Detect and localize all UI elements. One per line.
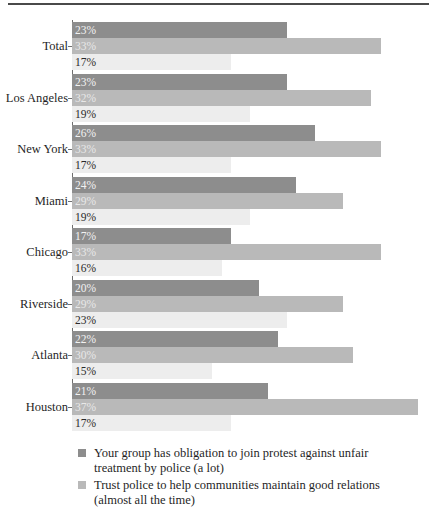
category-label-new-york: New York [0,143,68,156]
bar-value-label: 21% [75,383,96,399]
bar-total-series3: 17% [72,54,231,70]
bar-group: Atlanta22%30%15% [0,331,437,379]
bar-atlanta-series2: 30% [72,347,353,363]
bar-group: New York26%33%17% [0,125,437,173]
legend-swatch-icon [78,481,86,489]
bar-new-york-series3: 17% [72,157,231,173]
bar-value-label: 16% [75,260,96,276]
bar-value-label: 29% [75,296,96,312]
bar-value-label: 33% [75,244,96,260]
category-label-total: Total [0,40,68,53]
bar-miami-series2: 29% [72,193,343,209]
bar-los-angeles-series3: 19% [72,106,250,122]
bar-miami-series3: 19% [72,209,250,225]
bar-value-label: 32% [75,90,96,106]
category-label-houston: Houston [0,401,68,414]
bar-total-series1: 23% [72,22,287,38]
bar-value-label: 33% [75,141,96,157]
bar-group: Houston21%37%17% [0,383,437,431]
bar-value-label: 17% [75,415,96,431]
bar-group: Miami24%29%19% [0,177,437,225]
bar-los-angeles-series1: 23% [72,74,287,90]
bar-value-label: 23% [75,74,96,90]
chart-legend: Your group has obligation to join protes… [78,446,430,510]
header-divider [8,3,429,5]
legend-swatch-icon [78,449,86,457]
bar-group: Los Angeles23%32%19% [0,74,437,122]
bar-value-label: 33% [75,38,96,54]
legend-entry-1: Your group has obligation to join protes… [78,446,430,475]
bar-value-label: 15% [75,363,96,379]
bar-value-label: 24% [75,177,96,193]
bar-riverside-series3: 23% [72,312,287,328]
category-label-chicago: Chicago [0,246,68,259]
bar-miami-series1: 24% [72,177,296,193]
bar-value-label: 29% [75,193,96,209]
bar-new-york-series1: 26% [72,125,315,141]
bar-chicago-series1: 17% [72,228,231,244]
bar-group: Total23%33%17% [0,22,437,70]
legend-label-line1: Your group has obligation to join protes… [94,446,430,461]
bar-value-label: 23% [75,312,96,328]
bar-total-series2: 33% [72,38,381,54]
bar-chicago-series2: 33% [72,244,381,260]
bar-value-label: 17% [75,157,96,173]
bar-value-label: 22% [75,331,96,347]
bar-value-label: 17% [75,228,96,244]
legend-label-line2: (almost all the time) [94,493,430,508]
bar-atlanta-series3: 15% [72,363,212,379]
bar-value-label: 20% [75,280,96,296]
bar-value-label: 19% [75,209,96,225]
bar-riverside-series2: 29% [72,296,343,312]
bar-new-york-series2: 33% [72,141,381,157]
bar-group: Chicago17%33%16% [0,228,437,276]
legend-entry-2: Trust police to help communities maintai… [78,478,430,507]
bar-value-label: 30% [75,347,96,363]
bar-riverside-series1: 20% [72,280,259,296]
bar-houston-series1: 21% [72,383,268,399]
category-label-atlanta: Atlanta [0,349,68,362]
bar-chicago-series3: 16% [72,260,222,276]
bar-los-angeles-series2: 32% [72,90,371,106]
bar-value-label: 19% [75,106,96,122]
bar-value-label: 26% [75,125,96,141]
bar-value-label: 17% [75,54,96,70]
bar-atlanta-series1: 22% [72,331,278,347]
bar-group: Riverside20%29%23% [0,280,437,328]
category-label-riverside: Riverside [0,298,68,311]
bar-houston-series2: 37% [72,399,418,415]
bar-value-label: 23% [75,22,96,38]
bar-value-label: 37% [75,399,96,415]
category-label-miami: Miami [0,195,68,208]
category-label-los-angeles: Los Angeles [0,92,68,105]
bar-houston-series3: 17% [72,415,231,431]
legend-label-line1: Trust police to help communities maintai… [94,478,430,493]
grouped-bar-chart: Total23%33%17%Los Angeles23%32%19%New Yo… [0,18,437,430]
legend-label-line2: treatment by police (a lot) [94,461,430,476]
